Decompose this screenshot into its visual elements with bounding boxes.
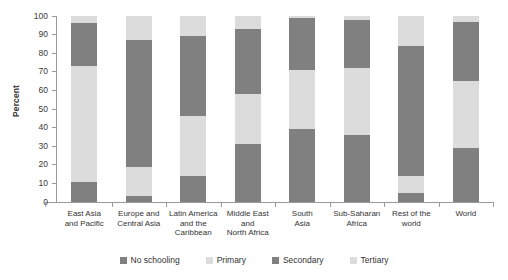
y-axis-tick-label: 80 [39, 48, 48, 58]
y-axis-tick-label: 70 [39, 66, 48, 76]
y-axis-tick-label: 30 [39, 141, 48, 151]
legend-label: No schooling [131, 255, 180, 265]
stacked-bar[interactable] [398, 16, 424, 202]
stacked-bar[interactable] [453, 16, 479, 202]
legend-swatch-icon [120, 257, 127, 264]
x-axis-separator [439, 202, 440, 207]
x-axis-separator [45, 202, 46, 207]
stacked-bar[interactable] [235, 16, 261, 202]
bar-segment-tertiary[interactable] [398, 16, 424, 46]
stacked-bar[interactable] [126, 16, 152, 202]
x-axis-separator [112, 202, 113, 207]
legend-item[interactable]: Tertiary [350, 255, 389, 265]
x-axis-category-label: South Asia [271, 209, 333, 228]
x-axis-category-label: East Asia and Pacific [53, 209, 115, 228]
bar-segment-no-schooling[interactable] [235, 144, 261, 202]
bar-segment-primary[interactable] [398, 176, 424, 193]
stacked-bar[interactable] [71, 16, 97, 202]
stacked-bar[interactable] [289, 16, 315, 202]
legend-label: Secondary [283, 255, 324, 265]
x-axis-category-label: Sub-Saharan Africa [326, 209, 388, 228]
bar-segment-primary[interactable] [453, 81, 479, 148]
plot-area [57, 16, 493, 202]
bar-segment-no-schooling[interactable] [344, 135, 370, 202]
bar-segment-no-schooling[interactable] [398, 193, 424, 202]
chart-legend: No schoolingPrimarySecondaryTertiary [0, 255, 508, 265]
y-axis-tick-label: 90 [39, 29, 48, 39]
y-axis-tick-label: 20 [39, 159, 48, 169]
legend-item[interactable]: Primary [206, 255, 246, 265]
bar-segment-secondary[interactable] [126, 40, 152, 166]
y-axis-title: Percent [11, 56, 21, 146]
bar-segment-secondary[interactable] [398, 46, 424, 176]
x-axis-category-label: Europe and Central Asia [108, 209, 170, 228]
bar-segment-tertiary[interactable] [126, 16, 152, 40]
bar-segment-tertiary[interactable] [235, 16, 261, 29]
bar-segment-secondary[interactable] [289, 18, 315, 70]
y-axis-tick-label: 10 [39, 178, 48, 188]
y-axis-tick-label: 100 [34, 11, 48, 21]
bar-segment-secondary[interactable] [235, 29, 261, 94]
x-axis-separator [493, 202, 494, 207]
bar-segment-no-schooling[interactable] [453, 148, 479, 202]
y-axis-tick-label: 40 [39, 122, 48, 132]
x-axis-separator [330, 202, 331, 207]
x-axis-category-label: Latin America and the Caribbean [162, 209, 224, 238]
bar-segment-secondary[interactable] [344, 20, 370, 68]
legend-swatch-icon [350, 257, 357, 264]
bar-segment-primary[interactable] [344, 68, 370, 135]
x-axis-category-label: Rest of the world [380, 209, 442, 228]
bar-segment-primary[interactable] [126, 167, 152, 196]
x-axis-separator [166, 202, 167, 207]
legend-item[interactable]: Secondary [272, 255, 324, 265]
bar-segment-secondary[interactable] [180, 36, 206, 116]
stacked-bar[interactable] [344, 16, 370, 202]
bar-segment-primary[interactable] [289, 70, 315, 130]
y-axis-tick-label: 60 [39, 85, 48, 95]
x-axis-separator [275, 202, 276, 207]
legend-swatch-icon [272, 257, 279, 264]
legend-label: Primary [217, 255, 246, 265]
bar-segment-secondary[interactable] [71, 23, 97, 66]
bar-segment-tertiary[interactable] [180, 16, 206, 36]
bar-segment-no-schooling[interactable] [289, 129, 315, 202]
x-axis-category-label: World [435, 209, 497, 219]
bar-segment-tertiary[interactable] [71, 16, 97, 23]
x-axis-category-label: Middle East and North Africa [217, 209, 279, 238]
bar-segment-no-schooling[interactable] [126, 196, 152, 203]
bar-segment-primary[interactable] [180, 116, 206, 176]
bar-segment-primary[interactable] [71, 66, 97, 181]
legend-item[interactable]: No schooling [120, 255, 180, 265]
stacked-bar-chart: Percent 0102030405060708090100 East Asia… [0, 0, 508, 280]
bar-segment-no-schooling[interactable] [71, 182, 97, 202]
legend-swatch-icon [206, 257, 213, 264]
bar-segment-no-schooling[interactable] [180, 176, 206, 202]
y-axis-tick-label: 50 [39, 104, 48, 114]
x-axis-separator [221, 202, 222, 207]
legend-label: Tertiary [361, 255, 389, 265]
bar-segment-primary[interactable] [235, 94, 261, 144]
stacked-bar[interactable] [180, 16, 206, 202]
x-axis-separator [384, 202, 385, 207]
bar-segment-secondary[interactable] [453, 22, 479, 82]
